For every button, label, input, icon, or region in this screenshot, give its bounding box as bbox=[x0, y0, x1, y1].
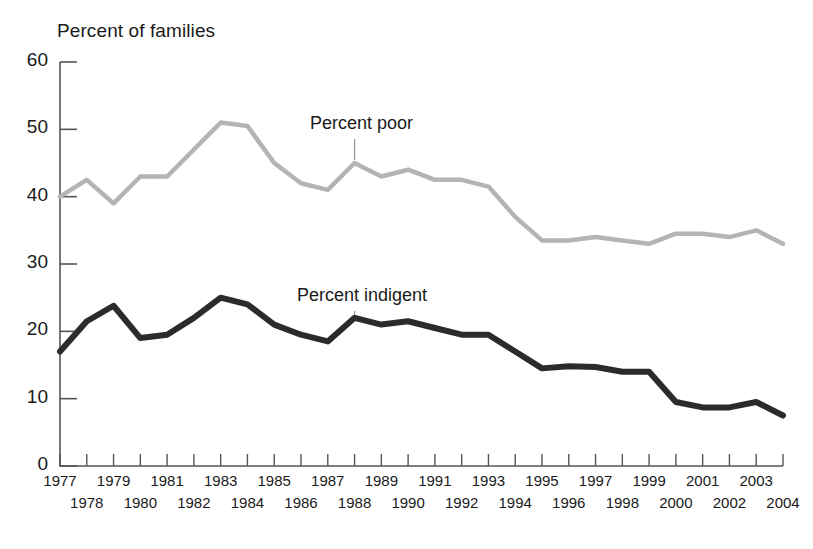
y-axis-tick-label: 20 bbox=[8, 318, 48, 340]
x-axis-tick-label: 1996 bbox=[539, 494, 599, 511]
series-label-percent-poor: Percent poor bbox=[310, 113, 413, 134]
y-axis-tick-label: 50 bbox=[8, 116, 48, 138]
chart-figure: Percent of families 0102030405060 197719… bbox=[0, 0, 813, 549]
series-label-percent-indigent: Percent indigent bbox=[297, 285, 427, 306]
x-axis-tick-label: 1988 bbox=[325, 494, 385, 511]
x-axis-tick-label: 1992 bbox=[432, 494, 492, 511]
plot-area bbox=[0, 0, 813, 549]
x-axis-tick-label: 1999 bbox=[619, 472, 679, 489]
x-axis-tick-label: 2004 bbox=[753, 494, 813, 511]
x-axis-tick-label: 1983 bbox=[191, 472, 251, 489]
y-axis-tick-label: 10 bbox=[8, 386, 48, 408]
y-axis-tick-label: 30 bbox=[8, 251, 48, 273]
x-axis-tick-label: 1981 bbox=[137, 472, 197, 489]
x-axis-tick-label: 1991 bbox=[405, 472, 465, 489]
x-axis-tick-label: 1979 bbox=[84, 472, 144, 489]
x-axis-tick-label: 1978 bbox=[57, 494, 117, 511]
y-axis-tick-label: 40 bbox=[8, 184, 48, 206]
x-axis-tick-label: 1977 bbox=[30, 472, 90, 489]
x-axis-tick-label: 2000 bbox=[646, 494, 706, 511]
x-axis-tick-label: 1980 bbox=[110, 494, 170, 511]
x-axis-tick-label: 2001 bbox=[673, 472, 733, 489]
x-axis-tick-label: 1989 bbox=[351, 472, 411, 489]
x-axis-tick-label: 1993 bbox=[458, 472, 518, 489]
x-axis-tick-label: 1990 bbox=[378, 494, 438, 511]
x-axis-tick-label: 2003 bbox=[726, 472, 786, 489]
x-axis-tick-label: 1997 bbox=[566, 472, 626, 489]
x-axis-tick-label: 1986 bbox=[271, 494, 331, 511]
x-axis-tick-label: 1998 bbox=[592, 494, 652, 511]
x-axis-ticks bbox=[60, 454, 783, 466]
x-axis-tick-label: 2002 bbox=[699, 494, 759, 511]
y-axis-tick-label: 60 bbox=[8, 49, 48, 71]
x-axis-tick-label: 1984 bbox=[217, 494, 277, 511]
x-axis-tick-label: 1994 bbox=[485, 494, 545, 511]
x-axis-tick-label: 1995 bbox=[512, 472, 572, 489]
series-lines bbox=[60, 123, 783, 416]
y-axis-ticks bbox=[60, 62, 77, 466]
x-axis-tick-label: 1982 bbox=[164, 494, 224, 511]
axis-lines bbox=[60, 62, 783, 466]
x-axis-tick-label: 1987 bbox=[298, 472, 358, 489]
x-axis-tick-label: 1985 bbox=[244, 472, 304, 489]
